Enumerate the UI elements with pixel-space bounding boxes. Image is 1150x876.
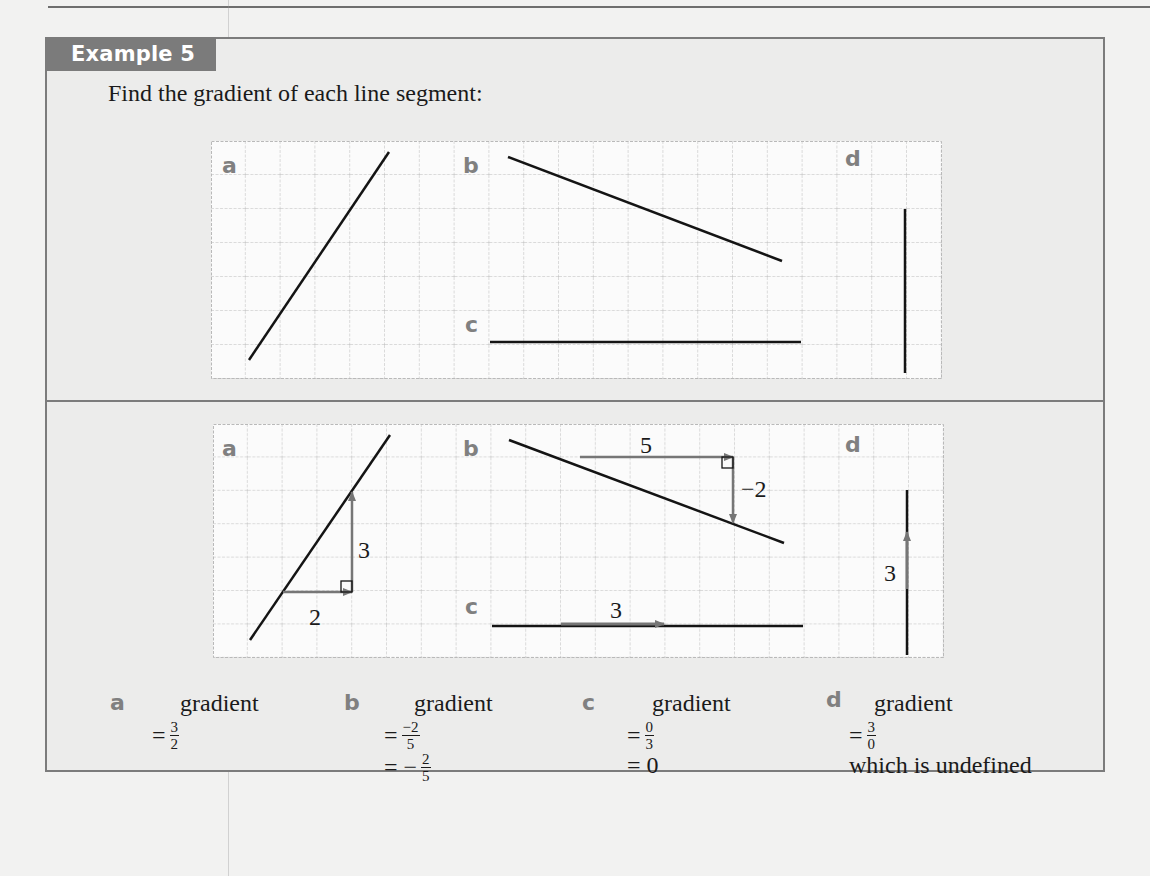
answer-d-step-2: which is undefined (849, 750, 1032, 780)
answer-b-step-1: =−25 (384, 718, 420, 751)
diagram-label-a: a (222, 154, 237, 178)
fraction: 03 (645, 720, 655, 751)
solution-label-a: a (222, 437, 237, 461)
answer-label-a: a (110, 691, 125, 715)
answer-d-step-1: =30 (849, 718, 876, 751)
answer-label-d: d (826, 688, 842, 712)
solution-label-b: b (463, 437, 479, 461)
solution-label-c: c (465, 595, 478, 619)
answer-label-c: c (582, 691, 595, 715)
answer-a-step-1: =32 (152, 718, 179, 751)
b-run-label: 5 (640, 430, 652, 460)
answer-c-step-2: = 0 (627, 750, 659, 780)
answer-label-b: b (344, 691, 360, 715)
example-tab: Example 5 (45, 37, 216, 71)
question-grid (211, 141, 942, 381)
answer-c-heading: gradient (652, 688, 731, 718)
d-rise-label: 3 (884, 558, 896, 588)
a-run-label: 2 (309, 602, 321, 632)
diagram-label-c: c (465, 313, 478, 337)
fraction: −25 (402, 720, 420, 751)
c-run-label: 3 (610, 595, 622, 625)
answer-a-heading: gradient (180, 688, 259, 718)
solution-grid (213, 424, 944, 660)
question-text: Find the gradient of each line segment: (108, 78, 483, 108)
section-divider (45, 400, 1105, 402)
fraction: 25 (421, 752, 431, 783)
diagram-label-d: d (845, 147, 861, 171)
diagram-label-b: b (463, 154, 479, 178)
page-header-rule (48, 6, 1150, 8)
answer-b-heading: gradient (414, 688, 493, 718)
answer-d-heading: gradient (874, 688, 953, 718)
a-rise-label: 3 (358, 535, 370, 565)
fraction: 32 (170, 720, 180, 751)
b-rise-label: −2 (741, 474, 767, 504)
fraction: 30 (867, 720, 877, 751)
answer-c-step-1: =03 (627, 718, 654, 751)
answer-b-step-2: = −25 (384, 750, 431, 783)
solution-label-d: d (845, 433, 861, 457)
